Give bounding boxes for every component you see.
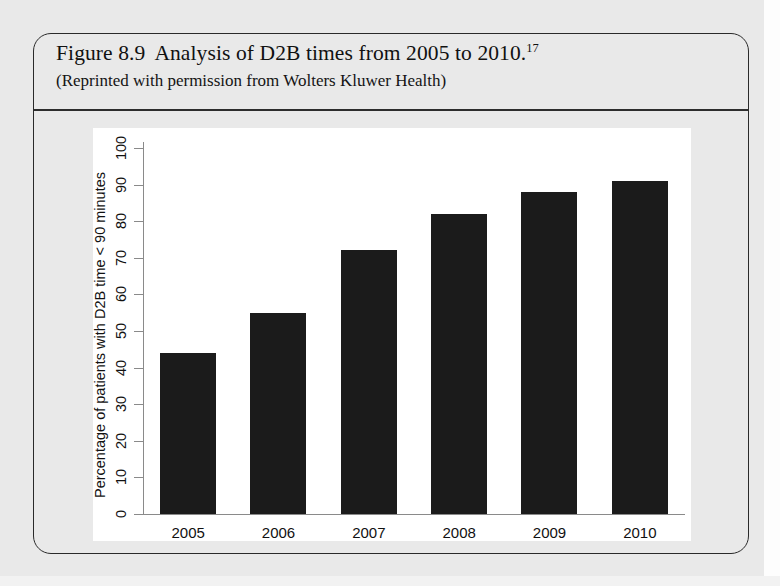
bar	[160, 353, 216, 514]
y-axis-tick-label: 40	[113, 360, 129, 376]
chart-panel: Percentage of patients with D2B time < 9…	[93, 128, 691, 541]
figure-number: Figure 8.9	[56, 41, 145, 65]
y-axis-tick	[134, 294, 143, 295]
bar	[431, 214, 487, 514]
y-axis-tick	[134, 221, 143, 222]
x-axis-line	[143, 514, 685, 515]
caption-primary-line: Figure 8.9Analysis of D2B times from 200…	[56, 40, 728, 67]
bar	[341, 250, 397, 514]
y-axis-tick-label: 20	[113, 433, 129, 449]
figure-page: Figure 8.9Analysis of D2B times from 200…	[0, 0, 780, 586]
y-axis-line	[143, 142, 144, 515]
page-right-margin	[764, 0, 780, 586]
y-axis-tick	[134, 368, 143, 369]
caption-credit-line: (Reprinted with permission from Wolters …	[56, 70, 728, 92]
x-axis-tick-label: 2010	[595, 524, 685, 541]
y-axis-tick-label: 80	[113, 213, 129, 229]
y-axis-tick	[134, 477, 143, 478]
figure-box: Figure 8.9Analysis of D2B times from 200…	[33, 33, 749, 554]
y-axis-tick-label: 0	[113, 510, 129, 518]
y-axis-tick	[134, 185, 143, 186]
y-axis-tick	[134, 331, 143, 332]
y-axis-tick	[134, 404, 143, 405]
bar	[521, 192, 577, 514]
y-axis-tick	[134, 148, 143, 149]
y-axis-tick	[134, 514, 143, 515]
caption-divider	[34, 109, 749, 111]
figure-footnote-marker: 17	[526, 41, 539, 55]
y-axis-tick-label: 50	[113, 323, 129, 339]
x-axis-tick-label: 2008	[414, 524, 504, 541]
bar	[250, 313, 306, 514]
page-bottom-margin	[0, 576, 780, 586]
y-axis-tick-label: 70	[113, 250, 129, 266]
bar-chart-plot-area: Percentage of patients with D2B time < 9…	[93, 128, 691, 541]
x-axis-tick-label: 2006	[233, 524, 323, 541]
y-axis-tick-label: 90	[113, 177, 129, 193]
y-axis-tick-label: 100	[113, 136, 129, 160]
y-axis-tick	[134, 441, 143, 442]
figure-caption-text: Analysis of D2B times from 2005 to 2010.	[154, 41, 526, 65]
y-axis-tick-label: 30	[113, 396, 129, 412]
x-axis-tick-label: 2009	[504, 524, 594, 541]
x-axis-tick-label: 2007	[324, 524, 414, 541]
x-axis-tick-label: 2005	[143, 524, 233, 541]
bar	[612, 181, 668, 514]
y-axis-title: Percentage of patients with D2B time < 9…	[92, 155, 108, 515]
y-axis-tick	[134, 258, 143, 259]
y-axis-tick-label: 10	[113, 469, 129, 485]
y-axis-tick-label: 60	[113, 286, 129, 302]
figure-caption: Figure 8.9Analysis of D2B times from 200…	[34, 34, 748, 92]
